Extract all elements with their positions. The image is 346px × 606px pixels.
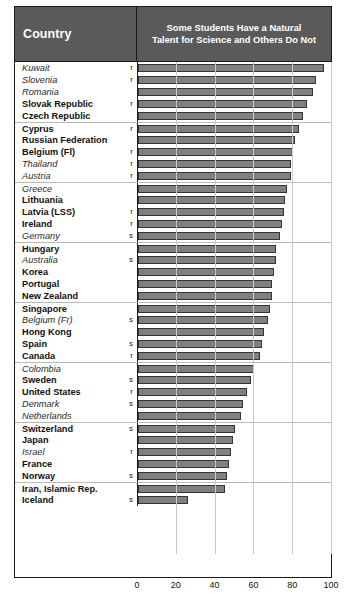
data-notation-marker — [111, 266, 133, 278]
x-tick-label: 40 — [200, 580, 230, 590]
country-label: Hong Kong — [22, 326, 72, 338]
chart-figure: Country Some Students Have a Natural Tal… — [14, 6, 332, 578]
bar-track — [137, 470, 331, 482]
bar-track — [137, 218, 331, 230]
bar — [138, 185, 287, 193]
data-notation-marker — [111, 326, 133, 338]
bar-track — [137, 134, 331, 146]
table-row: Belgium (Fl)r — [15, 146, 331, 158]
bar — [138, 412, 241, 420]
data-notation-marker — [111, 458, 133, 470]
data-notation-marker: r — [111, 74, 133, 86]
bar — [138, 305, 270, 313]
chart-title: Some Students Have a Natural Talent for … — [148, 22, 320, 46]
bar — [138, 220, 282, 228]
country-label: Norway — [22, 470, 55, 482]
table-row: Hungary — [15, 242, 331, 254]
bar — [138, 496, 188, 504]
table-row: Slovak Republicr — [15, 98, 331, 110]
bar-track — [137, 254, 331, 266]
table-row: Austriar — [15, 170, 331, 182]
table-row: Japan — [15, 434, 331, 446]
country-label: Belgium (Fr) — [22, 314, 73, 326]
country-label: Austria — [22, 170, 51, 182]
country-label: Netherlands — [22, 410, 72, 422]
bar — [138, 172, 291, 180]
country-label: Ireland — [22, 218, 52, 230]
bar — [138, 400, 243, 408]
bar-track — [137, 158, 331, 170]
x-tick-label: 20 — [161, 580, 191, 590]
country-label: Thailand — [22, 158, 57, 170]
country-label: United States — [22, 386, 81, 398]
table-row: Denmarks — [15, 398, 331, 410]
bar-track — [137, 86, 331, 98]
country-label: Czech Republic — [22, 110, 90, 122]
data-notation-marker: s — [111, 314, 133, 326]
country-label: Iceland — [22, 494, 54, 506]
bar — [138, 436, 233, 444]
table-row: France — [15, 458, 331, 470]
country-label: Korea — [22, 266, 48, 278]
country-label: Denmark — [22, 398, 59, 410]
country-label: Japan — [22, 434, 49, 446]
chart-title-line-1: Some Students Have a Natural — [167, 23, 302, 33]
table-row: Romania — [15, 86, 331, 98]
data-notation-marker: r — [111, 170, 133, 182]
bar — [138, 448, 231, 456]
x-tick-label: 0 — [122, 580, 152, 590]
table-row: United Statesr — [15, 386, 331, 398]
country-label: Slovenia — [22, 74, 57, 86]
bar-track — [137, 446, 331, 458]
data-notation-marker — [111, 290, 133, 302]
bar — [138, 352, 260, 360]
country-label: New Zealand — [22, 290, 78, 302]
table-row: Spains — [15, 338, 331, 350]
data-notation-marker: s — [111, 254, 133, 266]
bar-track — [137, 278, 331, 290]
bar — [138, 485, 225, 493]
bar-track — [137, 386, 331, 398]
table-row: Greece — [15, 182, 331, 194]
header-cell-title: Some Students Have a Natural Talent for … — [137, 7, 331, 61]
bar — [138, 148, 293, 156]
bar — [138, 100, 307, 108]
data-notation-marker — [111, 278, 133, 290]
bar — [138, 125, 299, 133]
bar-track — [137, 110, 331, 122]
bar-track — [137, 494, 331, 506]
country-label: Russian Federation — [22, 134, 107, 146]
bar — [138, 316, 268, 324]
country-label: Israel — [22, 446, 44, 458]
bar-track — [137, 146, 331, 158]
country-label: Latvia (LSS) — [22, 206, 75, 218]
header-country-label: Country — [15, 27, 72, 41]
bar-track — [137, 434, 331, 446]
country-label: Romania — [22, 86, 59, 98]
country-label: Sweden — [22, 374, 57, 386]
country-label: Slovak Republic — [22, 98, 93, 110]
table-row: Australias — [15, 254, 331, 266]
country-label: Spain — [22, 338, 47, 350]
table-row: Russian Federation — [15, 134, 331, 146]
bar-track — [137, 374, 331, 386]
country-label: Portugal — [22, 278, 59, 290]
bar — [138, 208, 284, 216]
bar-track — [137, 62, 331, 74]
table-row: Netherlands — [15, 410, 331, 422]
table-row: Iran, Islamic Rep. — [15, 482, 331, 494]
data-notation-marker: r — [111, 446, 133, 458]
bar — [138, 425, 235, 433]
data-notation-marker: s — [111, 374, 133, 386]
bar — [138, 196, 285, 204]
country-label: France — [22, 458, 52, 470]
header-cell-country: Country — [15, 7, 137, 61]
bar — [138, 376, 251, 384]
data-notation-marker: r — [111, 386, 133, 398]
bar — [138, 292, 272, 300]
table-row: New Zealand — [15, 290, 331, 302]
data-notation-marker: r — [111, 146, 133, 158]
bar-track — [137, 326, 331, 338]
table-row: Kuwaitr — [15, 62, 331, 74]
data-notation-marker: s — [111, 494, 133, 506]
